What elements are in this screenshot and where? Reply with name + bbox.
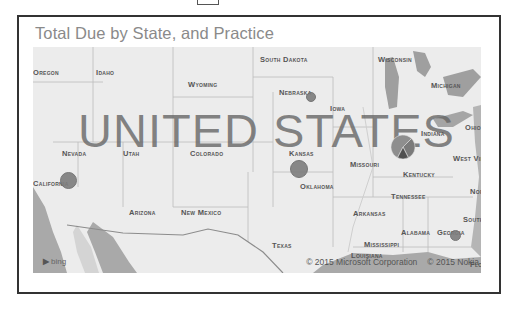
- copyright-nokia: © 2015 Nokia: [427, 257, 479, 267]
- state-label-wisconsin: Wisconsin: [378, 55, 412, 64]
- state-label-oregon: Oregon: [33, 68, 59, 77]
- state-label-mississippi: Mississippi: [364, 240, 399, 249]
- marker-georgia[interactable]: [450, 230, 461, 241]
- state-label-colorado: Colorado: [190, 149, 223, 158]
- state-label-ohio: Ohio: [465, 123, 481, 132]
- state-label-idaho: Idaho: [96, 68, 114, 77]
- marker-kansas[interactable]: [290, 160, 308, 178]
- visual-title: Total Due by State, and Practice: [35, 24, 274, 43]
- state-label-tennessee: Tennessee: [391, 192, 426, 201]
- bing-logo: ▶bing: [43, 257, 66, 266]
- state-label-nevada: Nevada: [62, 149, 86, 158]
- state-label-michigan: Michigan: [431, 81, 461, 90]
- marker-nebraska[interactable]: [306, 92, 316, 102]
- state-label-wyoming: Wyoming: [188, 80, 217, 89]
- previous-content-edge: [0, 0, 518, 8]
- bing-map[interactable]: UNITED STATES OregonIdahoWyomingSouth Da…: [33, 47, 481, 273]
- partial-box-glyph: [197, 0, 219, 5]
- pie-marker-illinois[interactable]: [390, 134, 416, 160]
- map-visual-container[interactable]: Total Due by State, and Practice: [17, 15, 501, 294]
- state-label-texas: Texas: [272, 241, 292, 250]
- marker-california[interactable]: [60, 172, 77, 189]
- map-basemap: [33, 47, 481, 273]
- state-label-north-carolina: North Carolina: [470, 187, 481, 196]
- state-label-south-carolina: South Carolina: [463, 215, 481, 224]
- state-label-oklahoma: Oklahoma: [300, 182, 334, 191]
- state-label-arizona: Arizona: [129, 208, 156, 217]
- state-label-iowa: Iowa: [330, 104, 345, 113]
- state-label-new-mexico: New Mexico: [181, 208, 221, 217]
- bing-b-icon: ▶: [43, 257, 49, 266]
- state-label-alabama: Alabama: [401, 228, 430, 237]
- state-label-indiana: Indiana: [421, 129, 445, 138]
- state-label-west-virginia: West Virginia: [453, 154, 481, 163]
- state-label-utah: Utah: [123, 149, 140, 158]
- copyright-microsoft: © 2015 Microsoft Corporation: [306, 257, 417, 267]
- state-label-south-dakota: South Dakota: [260, 55, 308, 64]
- state-label-missouri: Missouri: [350, 160, 379, 169]
- state-label-kentucky: Kentucky: [403, 170, 435, 179]
- state-label-arkansas: Arkansas: [353, 209, 386, 218]
- map-copyright: © 2015 Microsoft Corporation© 2015 Nokia: [296, 257, 479, 267]
- state-label-kansas: Kansas: [289, 149, 314, 158]
